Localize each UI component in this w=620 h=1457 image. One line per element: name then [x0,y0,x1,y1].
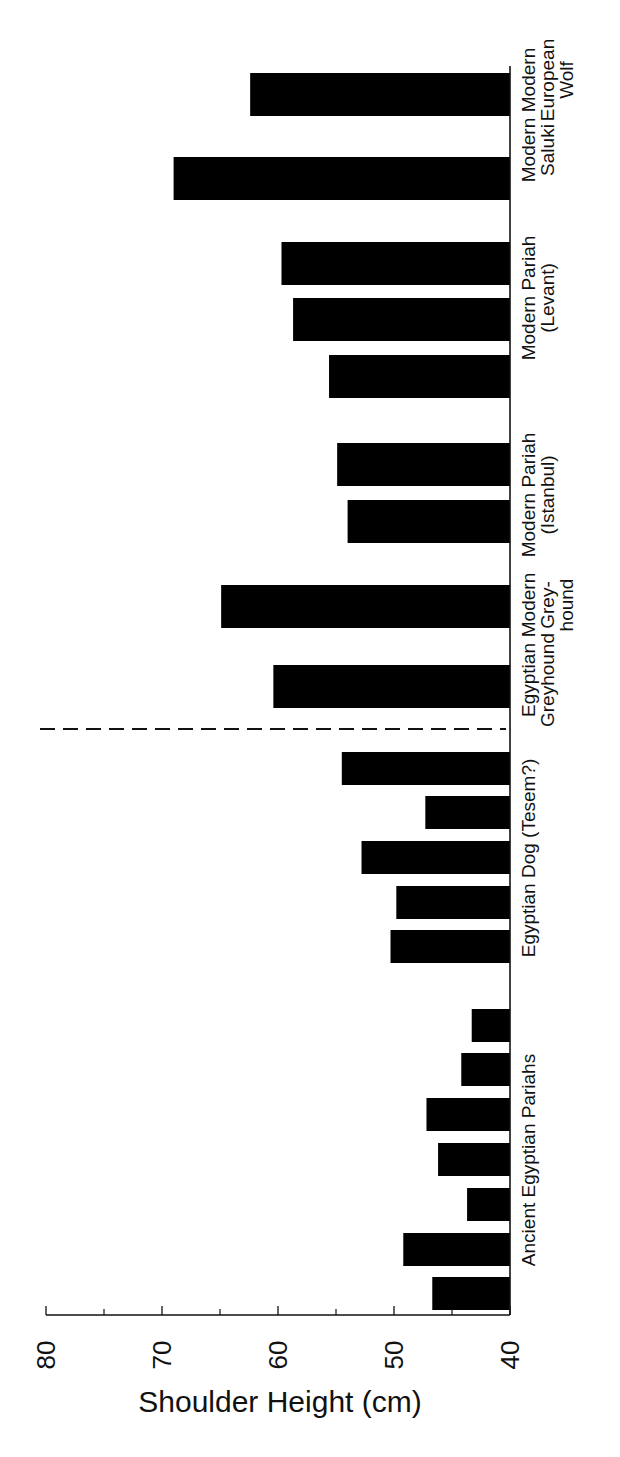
bar [329,355,510,398]
bar [281,242,510,285]
tick-label: 60 [263,1341,293,1370]
shoulder-height-chart: 8070605040 Ancient Egyptian PariahsEgypt… [0,0,620,1457]
tick-label: 80 [31,1341,61,1370]
bar [250,73,510,116]
tick-label: 50 [379,1341,409,1370]
category-label: Wolf [556,60,577,98]
category-label: Modern Pariah [518,433,539,558]
tick-label: 40 [495,1341,525,1370]
category-label: (Levant) [537,263,558,333]
category-label: European [537,39,558,121]
category-label: Egyptian [518,643,539,717]
bar [438,1143,510,1176]
bar [425,796,510,829]
bar [472,1009,510,1042]
category-label: Grey- [537,581,558,629]
category-label: (Istanbul) [537,455,558,534]
bar [273,665,510,708]
category-label: Modern [518,48,539,112]
category-labels: Ancient Egyptian PariahsEgyptian Dog (Te… [518,39,577,1266]
category-label: hound [556,579,577,632]
category-label: Egyptian Dog (Tesem?) [518,759,539,958]
bar [293,298,510,341]
category-label: Greyhound [537,633,558,727]
category-label: Saluki [537,124,558,176]
bar [337,443,510,486]
tick-label: 70 [147,1341,177,1370]
bar [174,157,510,200]
bar [221,585,510,628]
category-label: Modern [518,573,539,637]
bar [426,1098,510,1131]
bar [461,1053,510,1086]
bar [348,500,510,543]
bar [403,1233,510,1266]
bar [467,1188,510,1221]
bar [342,752,510,785]
category-label: Ancient Egyptian Pariahs [518,1054,539,1266]
category-label: Modern Pariah [518,236,539,361]
category-label: Modern [518,118,539,182]
bar [362,841,510,874]
value-axis: 8070605040 [31,1306,525,1369]
bar [396,886,510,919]
bar [391,930,510,963]
axis-title: Shoulder Height (cm) [138,1385,421,1418]
bars-layer [174,73,510,1310]
bar [432,1277,510,1310]
